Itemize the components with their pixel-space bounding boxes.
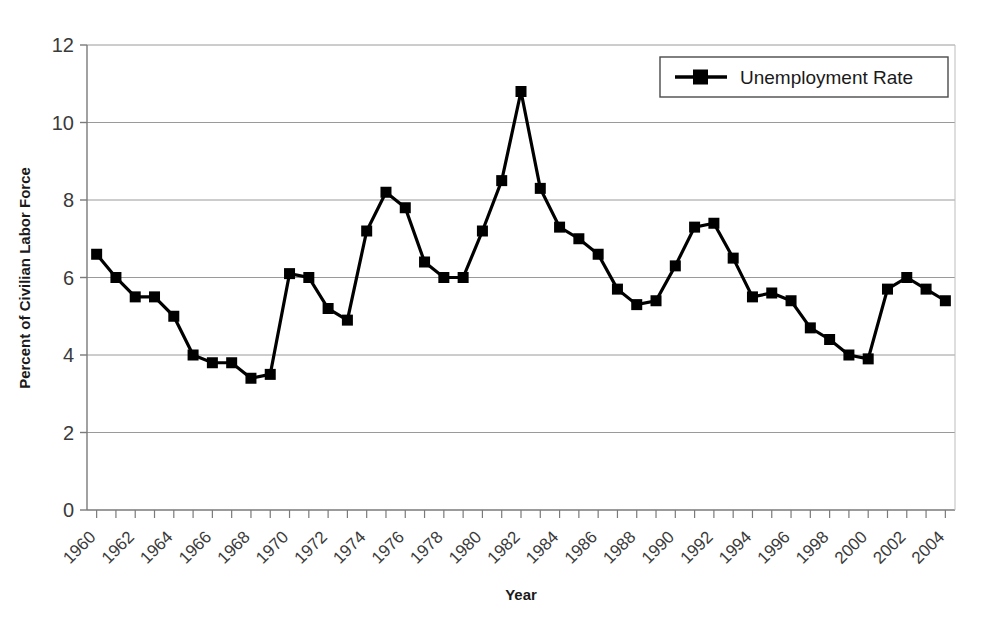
data-point-marker xyxy=(168,311,179,322)
data-point-marker xyxy=(612,284,623,295)
legend-label-unemployment-rate: Unemployment Rate xyxy=(740,67,913,88)
data-point-marker xyxy=(477,226,488,237)
y-axis-title: Percent of Civilian Labor Force xyxy=(16,167,33,389)
data-point-marker xyxy=(419,257,430,268)
data-point-marker xyxy=(226,357,237,368)
data-point-marker xyxy=(824,334,835,345)
data-point-marker xyxy=(323,303,334,314)
data-point-marker xyxy=(496,175,507,186)
x-axis-title: Year xyxy=(505,586,537,603)
data-point-marker xyxy=(91,249,102,260)
data-point-marker xyxy=(651,295,662,306)
data-point-marker xyxy=(458,272,469,283)
chart-canvas: 024681012 196019621964196619681970197219… xyxy=(0,0,994,634)
data-point-marker xyxy=(245,373,256,384)
data-point-marker xyxy=(805,322,816,333)
data-point-marker xyxy=(438,272,449,283)
legend: Unemployment Rate xyxy=(660,57,948,97)
data-point-marker xyxy=(901,272,912,283)
unemployment-rate-chart: 024681012 196019621964196619681970197219… xyxy=(0,0,994,634)
data-point-marker xyxy=(361,226,372,237)
y-tick-label: 6 xyxy=(63,267,74,289)
data-point-marker xyxy=(882,284,893,295)
legend-marker-sample xyxy=(693,70,708,85)
data-point-marker xyxy=(554,222,565,233)
y-tick-label: 12 xyxy=(52,34,74,56)
data-point-marker xyxy=(593,249,604,260)
data-point-marker xyxy=(843,350,854,361)
data-point-marker xyxy=(207,357,218,368)
y-tick-label: 8 xyxy=(63,189,74,211)
data-point-marker xyxy=(728,253,739,264)
data-point-marker xyxy=(130,291,141,302)
data-point-marker xyxy=(303,272,314,283)
data-point-marker xyxy=(786,295,797,306)
data-point-marker xyxy=(188,350,199,361)
data-point-marker xyxy=(400,202,411,213)
data-point-marker xyxy=(573,233,584,244)
y-tick-label: 0 xyxy=(63,499,74,521)
data-point-marker xyxy=(535,183,546,194)
data-point-marker xyxy=(766,288,777,299)
data-point-marker xyxy=(863,353,874,364)
data-point-marker xyxy=(265,369,276,380)
data-point-marker xyxy=(689,222,700,233)
data-point-marker xyxy=(110,272,121,283)
data-point-marker xyxy=(342,315,353,326)
data-point-marker xyxy=(940,295,951,306)
y-tick-label: 2 xyxy=(63,422,74,444)
data-point-marker xyxy=(631,299,642,310)
data-point-marker xyxy=(380,187,391,198)
data-point-marker xyxy=(747,291,758,302)
y-tick-label: 10 xyxy=(52,112,74,134)
data-point-marker xyxy=(921,284,932,295)
data-point-marker xyxy=(708,218,719,229)
y-tick-label: 4 xyxy=(63,344,74,366)
data-point-marker xyxy=(149,291,160,302)
data-point-marker xyxy=(670,260,681,271)
data-point-marker xyxy=(516,86,527,97)
data-point-marker xyxy=(284,268,295,279)
